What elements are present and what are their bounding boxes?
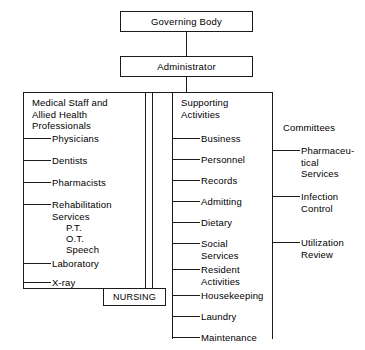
- column-heading-supporting-activities: Supporting Activities: [181, 97, 228, 120]
- item-utilization-review[interactable]: Utilization Review: [301, 237, 344, 260]
- branch-stub-housekeeping: [172, 295, 200, 296]
- branch-stub-dietary: [172, 222, 200, 223]
- subitem-speech[interactable]: Speech: [66, 244, 99, 255]
- branch-stub-records: [172, 180, 200, 181]
- item-rehabilitation-services[interactable]: Rehabilitation Services: [52, 199, 112, 222]
- node-governing-body-label: Governing Body: [151, 16, 222, 27]
- branch-stub-laboratory: [23, 263, 51, 264]
- item-housekeeping[interactable]: Housekeeping: [201, 290, 264, 302]
- branch-stub-maintenance: [172, 337, 200, 338]
- node-administrator-label: Administrator: [157, 61, 216, 72]
- branch-stub-infection-control: [272, 196, 300, 197]
- item-maintenance[interactable]: Maintenance: [201, 332, 257, 344]
- node-governing-body[interactable]: Governing Body: [120, 11, 253, 32]
- column-heading-committees: Committees: [283, 122, 335, 134]
- connector-administrator-to-bus: [186, 77, 187, 92]
- branch-stub-utilization-review: [272, 242, 300, 243]
- item-dentists[interactable]: Dentists: [52, 155, 88, 167]
- connector-horizontal-bus: [23, 92, 273, 93]
- column-heading-medical-staff: Medical Staff and Allied Health Professi…: [32, 97, 108, 132]
- item-admitting[interactable]: Admitting: [201, 196, 242, 208]
- connector-bus-to-nursing: [152, 92, 153, 288]
- node-nursing[interactable]: NURSING: [103, 288, 166, 306]
- branch-stub-dentists: [23, 160, 51, 161]
- item-pharmacists[interactable]: Pharmacists: [52, 177, 106, 189]
- subitem-pt[interactable]: P.T.: [66, 222, 82, 233]
- branch-stub-personnel: [172, 159, 200, 160]
- branch-stub-pharmacists: [23, 182, 51, 183]
- connector-bus-to-committees: [272, 92, 273, 243]
- subitem-ot[interactable]: O.T.: [66, 233, 84, 244]
- branch-stub-admitting: [172, 201, 200, 202]
- item-personnel[interactable]: Personnel: [201, 154, 245, 166]
- connector-governing-body-to-administrator: [186, 32, 187, 56]
- branch-stub-xray: [23, 282, 51, 283]
- item-laundry[interactable]: Laundry: [201, 311, 236, 323]
- branch-stub-business: [172, 138, 200, 139]
- item-dietary[interactable]: Dietary: [201, 217, 232, 229]
- branch-stub-physicians: [23, 138, 51, 139]
- item-laboratory[interactable]: Laboratory: [52, 258, 99, 270]
- item-resident-activities[interactable]: Resident Activities: [201, 264, 240, 287]
- org-chart: Governing Body Administrator Medical Sta…: [0, 0, 365, 350]
- branch-stub-pharmaceutical-services: [272, 150, 300, 151]
- item-pharmaceutical-services[interactable]: Pharmaceu- tical Services: [301, 145, 354, 180]
- item-social-services[interactable]: Social Services: [201, 238, 239, 261]
- branch-stub-resident-activities: [172, 269, 200, 270]
- item-physicians[interactable]: Physicians: [52, 133, 99, 145]
- item-records[interactable]: Records: [201, 175, 237, 187]
- node-administrator[interactable]: Administrator: [120, 56, 253, 77]
- branch-stub-laundry: [172, 316, 200, 317]
- node-nursing-label: NURSING: [113, 292, 156, 302]
- branch-stub-social-services: [172, 243, 200, 244]
- group-frame-supporting-activities: [172, 92, 273, 339]
- item-business[interactable]: Business: [201, 133, 241, 145]
- item-xray[interactable]: X-ray: [52, 277, 75, 289]
- item-infection-control[interactable]: Infection Control: [301, 191, 338, 214]
- branch-stub-rehabilitation-services: [23, 204, 51, 205]
